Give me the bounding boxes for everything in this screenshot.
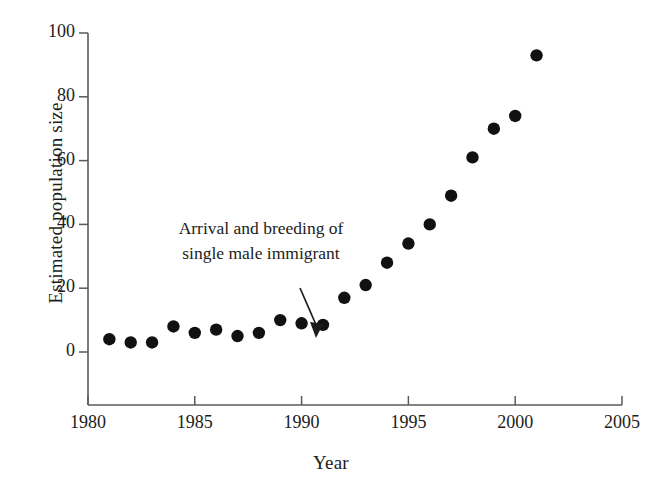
data-point — [509, 110, 521, 122]
y-axis-ticks — [79, 33, 88, 352]
y-tick-label: 20 — [23, 276, 75, 297]
data-point — [445, 189, 457, 201]
data-point — [530, 49, 542, 61]
annotation-text: Arrival and breeding of single male immi… — [150, 216, 372, 266]
data-point — [146, 336, 158, 348]
x-tick-label: 2005 — [587, 412, 657, 433]
x-tick-label: 2000 — [480, 412, 550, 433]
x-axis-ticks — [88, 396, 622, 405]
data-point — [231, 330, 243, 342]
data-point — [103, 333, 115, 345]
data-point — [210, 323, 222, 335]
x-tick-label: 1985 — [160, 412, 230, 433]
data-point — [466, 151, 478, 163]
annotation-line-1: Arrival and breeding of — [150, 216, 372, 241]
y-tick-label: 100 — [23, 21, 75, 42]
x-tick-label: 1990 — [267, 412, 337, 433]
y-tick-label: 0 — [23, 340, 75, 361]
x-tick-label: 1995 — [373, 412, 443, 433]
data-point — [338, 292, 350, 304]
y-tick-label: 60 — [23, 149, 75, 170]
data-point — [488, 123, 500, 135]
data-point — [402, 237, 414, 249]
y-tick-label: 80 — [23, 85, 75, 106]
annotation-arrow — [300, 288, 323, 338]
data-point — [295, 317, 307, 329]
data-point — [381, 256, 393, 268]
data-point-group — [103, 49, 543, 348]
x-axis-label: Year — [0, 452, 662, 474]
data-point — [359, 279, 371, 291]
annotation-line-2: single male immigrant — [150, 241, 372, 266]
x-tick-label: 1980 — [53, 412, 123, 433]
chart-figure: Estimated population size Year 020406080… — [0, 0, 662, 495]
data-point — [424, 218, 436, 230]
data-point — [167, 320, 179, 332]
data-point — [253, 327, 265, 339]
data-point — [274, 314, 286, 326]
data-point — [125, 336, 137, 348]
data-point — [189, 327, 201, 339]
y-tick-label: 40 — [23, 212, 75, 233]
